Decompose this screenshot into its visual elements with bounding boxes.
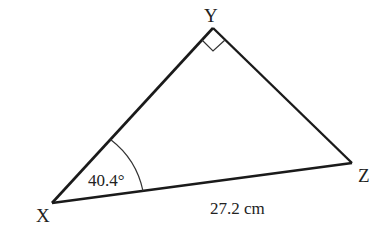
vertex-label-y: Y xyxy=(204,5,218,26)
side-label-xz: 27.2 cm xyxy=(210,199,265,218)
triangle-diagram: Y X Z 40.4° 27.2 cm xyxy=(0,0,386,227)
vertex-label-z: Z xyxy=(358,165,370,186)
side-yz xyxy=(213,28,352,163)
angle-label-x: 40.4° xyxy=(88,171,125,190)
right-angle-marker xyxy=(202,40,225,51)
vertex-label-x: X xyxy=(36,205,50,226)
side-xy xyxy=(52,28,213,203)
